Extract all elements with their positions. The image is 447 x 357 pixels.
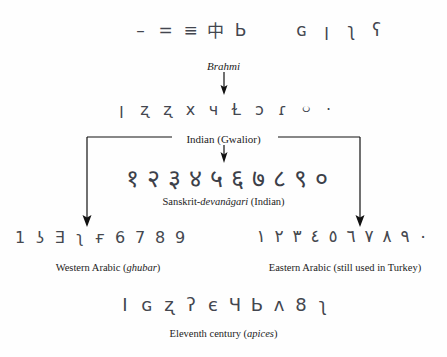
glyph: є [202, 294, 224, 315]
glyph: ғ [90, 228, 110, 247]
glyph: ʅ [312, 294, 334, 315]
glyph: ০ [294, 96, 317, 123]
glyph: 8 [290, 294, 312, 315]
glyph: ٥ [324, 226, 342, 246]
glyph: ɾ [271, 100, 294, 119]
glyph: २ [143, 160, 164, 194]
glyph: ٠ [414, 226, 432, 246]
glyph: Ь [228, 20, 253, 40]
caption-part-italic: apices [247, 328, 274, 339]
glyph-row-brahmi: ן ʐ ʐ х ч Ɫ ɔ ɾ ০ · [110, 96, 340, 123]
glyph: ɔ [248, 100, 271, 119]
caption-part: Eleventh century ( [170, 328, 248, 339]
caption-part: ) [157, 262, 161, 273]
glyph: ١ [252, 226, 270, 246]
caption-part: (Indian) [248, 196, 284, 207]
glyph: ٨ [378, 226, 396, 246]
arrowhead-left [83, 215, 92, 227]
glyph: 8 [150, 228, 170, 247]
glyph: · [317, 100, 340, 119]
glyph: ٩ [396, 226, 414, 246]
glyph: – [128, 20, 153, 40]
glyph: 6 [110, 228, 130, 247]
glyph-row-gwalior: १ २ ३ ४ ५ ६ ७ ८ ९ ० [122, 160, 332, 194]
caption-part: Western Arabic ( [56, 262, 127, 273]
glyph: ʐ [133, 100, 156, 119]
glyph: Ь [246, 294, 268, 315]
glyph: ४ [185, 160, 206, 194]
glyph: 1 [10, 228, 30, 247]
glyph: = [153, 20, 178, 40]
glyph-row-apices: I ɢ ʐ ʔ є Ч Ь ʌ 8 ʅ [114, 294, 334, 315]
glyph-row-eastern-arabic: ١ ٢ ٣ ٤ ٥ ٦ ٧ ٨ ٩ ٠ [252, 226, 432, 246]
glyph: ٢ [270, 226, 288, 246]
glyph: ʅ [70, 228, 90, 247]
glyph: ʕ [364, 20, 389, 40]
glyph: ʖ [30, 228, 50, 247]
caption-western-arabic: Western Arabic (ghubar) [8, 262, 208, 273]
label-indian-gwalior-text: Indian (Gwalior) [180, 133, 266, 145]
caption-part-italic: ghubar [127, 262, 157, 273]
glyph: ʐ [156, 100, 179, 119]
glyph: ʌ [268, 294, 290, 315]
glyph: ɢ [289, 20, 314, 40]
glyph-row-western-arabic: 1 ʖ Ǝ ʅ ғ 6 7 8 9 [10, 228, 190, 247]
glyph: ٣ [288, 226, 306, 246]
caption-part: Sanskrit- [162, 196, 200, 207]
caption-part-italic: devanâgari [200, 196, 248, 207]
glyph: ʅ [339, 20, 364, 40]
glyph: 9 [170, 228, 190, 247]
caption-eleventh-century-apices: Eleventh century (apices) [0, 328, 447, 339]
glyph: ३ [164, 160, 185, 194]
glyph: ८ [269, 160, 290, 194]
glyph: ן [110, 100, 133, 119]
glyph: ७ [248, 160, 269, 194]
glyph: ן [314, 20, 339, 40]
glyph: 中 [203, 17, 228, 42]
caption-sanskrit-devanagari: Sanskrit-devanâgari (Indian) [0, 196, 447, 207]
label-indian-gwalior: Indian (Gwalior) [0, 133, 447, 145]
glyph: Ǝ [50, 228, 70, 247]
caption-part: ) [274, 328, 278, 339]
glyph: ʔ [180, 294, 202, 315]
glyph: ≡ [178, 20, 203, 40]
glyph: Ч [224, 294, 246, 315]
glyph: ५ [206, 160, 227, 194]
glyph-row-brahmi-early: – = ≡ 中 Ь ɢ ן ʅ ʕ [128, 17, 389, 42]
glyph: Ɫ [225, 100, 248, 119]
glyph: १ [122, 160, 143, 194]
label-brahmi: Brahmi [0, 60, 447, 72]
glyph: ० [311, 160, 332, 194]
glyph: ९ [290, 160, 311, 194]
glyph: ٧ [360, 226, 378, 246]
glyph: ʐ [158, 294, 180, 315]
glyph: ६ [227, 160, 248, 194]
glyph: I [114, 294, 136, 315]
glyph: 7 [130, 228, 150, 247]
caption-eastern-arabic: Eastern Arabic (still used in Turkey) [243, 262, 447, 273]
glyph: ч [202, 100, 225, 119]
glyph: х [179, 100, 202, 119]
glyph: ٤ [306, 226, 324, 246]
glyph: ٦ [342, 226, 360, 246]
glyph: ɢ [136, 294, 158, 315]
diagram-canvas: – = ≡ 中 Ь ɢ ן ʅ ʕ Brahmi ן ʐ ʐ х ч Ɫ ɔ ɾ… [0, 0, 447, 357]
arrow-brahmi-to-brahmi-numerals [0, 0, 447, 100]
